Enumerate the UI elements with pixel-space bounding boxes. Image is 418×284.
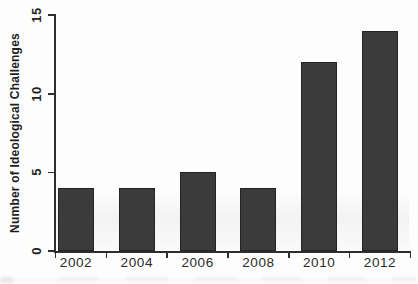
x-axis-origin-tick (55, 253, 57, 258)
bar-2010 (301, 62, 337, 251)
y-tick-mark (48, 172, 54, 174)
x-tick-mark (410, 253, 412, 258)
bar-2004 (119, 188, 155, 251)
y-tick-label: 5 (29, 168, 44, 176)
scan-artifact (126, 277, 168, 281)
x-tick-label: 2006 (181, 255, 213, 270)
scan-artifact (328, 277, 366, 281)
y-tick-label: 15 (29, 7, 44, 22)
x-tick-mark (166, 253, 168, 258)
x-tick-label: 2004 (121, 255, 153, 270)
y-tick-mark (48, 93, 54, 95)
scan-artifact (58, 277, 98, 281)
y-tick-label: 10 (29, 86, 44, 101)
bar-chart-figure: Number of Ideological Challenges 0510152… (0, 0, 418, 284)
bar-2012 (362, 31, 398, 251)
y-tick-mark (48, 14, 54, 16)
x-tick-label: 2002 (60, 255, 92, 270)
bar-2006 (180, 172, 216, 251)
y-tick-mark (48, 250, 54, 252)
x-tick-label: 2010 (303, 255, 335, 270)
scan-artifact (392, 277, 416, 281)
scan-artifact (262, 277, 302, 281)
x-tick-mark (227, 253, 229, 258)
y-axis-title: Number of Ideological Challenges (8, 33, 22, 233)
bar-2008 (240, 188, 276, 251)
x-tick-label: 2012 (364, 255, 396, 270)
x-tick-label: 2008 (242, 255, 274, 270)
scan-artifact (0, 277, 13, 283)
bar-2002 (58, 188, 94, 251)
y-axis-line (54, 14, 56, 253)
y-tick-label: 0 (29, 247, 44, 255)
x-tick-mark (349, 253, 351, 258)
scan-shading-band (56, 190, 409, 250)
x-axis-line (54, 251, 411, 253)
scan-artifact (194, 277, 238, 281)
x-tick-mark (288, 253, 290, 258)
x-tick-mark (106, 253, 108, 258)
